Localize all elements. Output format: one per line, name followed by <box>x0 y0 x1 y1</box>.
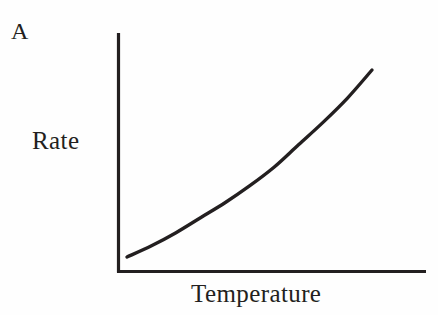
panel-label: A <box>11 19 29 43</box>
x-axis-label: Temperature <box>191 281 321 306</box>
y-axis-label: Rate <box>32 128 79 153</box>
figure-plot-area <box>0 0 438 315</box>
figure-panel-a: A Rate Temperature <box>0 0 438 315</box>
rate-curve <box>127 70 372 257</box>
